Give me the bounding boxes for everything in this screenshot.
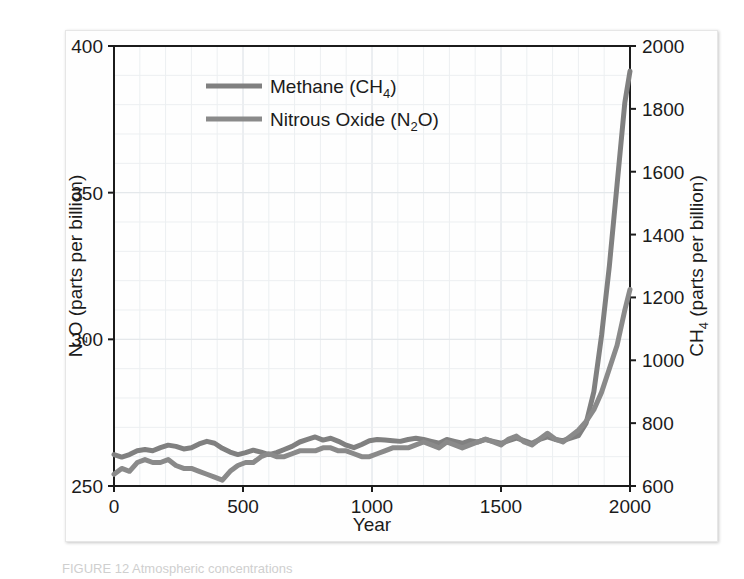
figure-caption: FIGURE 12 Atmospheric concentrations [62, 561, 682, 576]
chart-background [66, 31, 717, 541]
y-right-axis-tick-label: 1200 [642, 287, 684, 308]
y-left-title-tail: O (parts per billion) [66, 175, 86, 337]
y-right-axis-tick-label: 1000 [642, 350, 684, 371]
y-right-title-main: CH [686, 329, 707, 356]
y-right-axis-tick-label: 1600 [642, 162, 684, 183]
legend-nitrous-tail: O) [418, 109, 439, 130]
x-axis-tick-label: 0 [109, 496, 120, 517]
y-left-axis-tick-label: 250 [71, 476, 103, 497]
y-right-title-tail: (parts per billion) [686, 175, 707, 322]
y-right-axis-tick-label: 1400 [642, 225, 684, 246]
x-axis-title: Year [353, 514, 392, 535]
y-right-axis-tick-label: 600 [642, 476, 674, 497]
x-axis-tick-label: 1500 [480, 496, 522, 517]
legend-methane-sub: 4 [383, 86, 390, 101]
y-right-axis-tick-label: 1800 [642, 99, 684, 120]
y-right-axis-tick-label: 800 [642, 413, 674, 434]
legend-methane-tail: ) [390, 76, 396, 97]
figure-card: 0500100015002000250300350400600800100012… [65, 30, 718, 542]
y-right-axis-tick-label: 2000 [642, 36, 684, 57]
legend-methane-main: Methane (CH [270, 76, 383, 97]
y-left-title-main: N [66, 344, 86, 358]
x-axis-tick-label: 500 [227, 496, 259, 517]
x-axis-tick-label: 2000 [609, 496, 651, 517]
legend-nitrous-sub: 2 [410, 119, 417, 134]
y-right-title-sub: 4 [696, 322, 711, 329]
greenhouse-gas-line-chart: 0500100015002000250300350400600800100012… [66, 31, 717, 541]
y-left-axis-tick-label: 400 [71, 36, 103, 57]
y-left-title-sub: 2 [75, 336, 90, 343]
legend-nitrous-main: Nitrous Oxide (N [270, 109, 410, 130]
